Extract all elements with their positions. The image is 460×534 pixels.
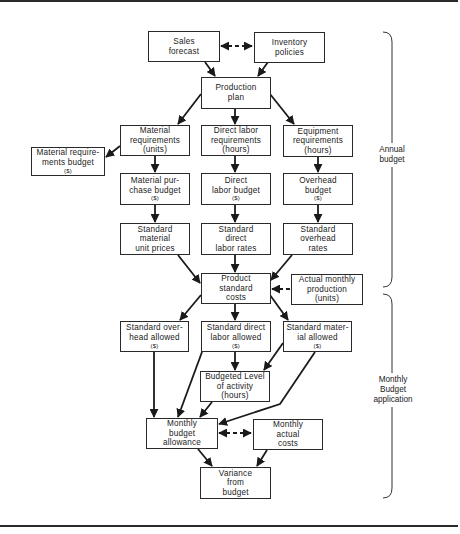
node-equipment-requirements: Equipment requirements (hours) [283,125,353,157]
node-variance-from-budget: Variance from budget [200,467,271,499]
node-actual-monthly-production: Actual monthly production (units) [291,274,363,305]
monthly-budget-application-label: Monthly Budget application [370,373,416,407]
node-sales-forecast: Sales forecast [148,31,220,62]
node-monthly-actual-costs: Monthly actual costs [253,419,323,450]
node-material-requirements: Material requirements (units) [120,125,190,156]
node-product-standard-costs: Product standard costs [201,273,271,304]
node-material-purchase-budget: Material pur- chase budget ($) [120,173,190,205]
node-overhead-budget: Overhead budget ($) [283,173,353,205]
node-standard-direct-labor-rates: Standard direct labor rates [201,223,271,255]
node-material-requirements-budget: Material require- ments budget ($) [31,147,105,176]
node-direct-labor-requirements: Direct labor requirements (hours) [201,125,271,156]
annual-budget-label: Annual budget [372,143,412,167]
node-standard-material-allowed: Standard mater- ial allowed ($) [283,321,352,352]
node-direct-labor-budget: Direct labor budget ($) [201,173,271,205]
node-standard-overhead-allowed: Standard over- head allowed ($) [120,321,189,352]
node-standard-material-unit-prices: Standard material unit prices [120,223,190,255]
node-inventory-policies: Inventory policies [254,32,325,63]
node-production-plan: Production plan [201,77,271,109]
node-standard-direct-labor-allowed: Standard direct labor allowed ($) [201,321,271,352]
node-standard-overhead-rates: Standard overhead rates [283,223,353,255]
node-monthly-budget-allowance: Monthly budget allowance [146,418,218,449]
node-budgeted-level-of-activity: Budgeted Level of activity (hours) [200,371,270,402]
